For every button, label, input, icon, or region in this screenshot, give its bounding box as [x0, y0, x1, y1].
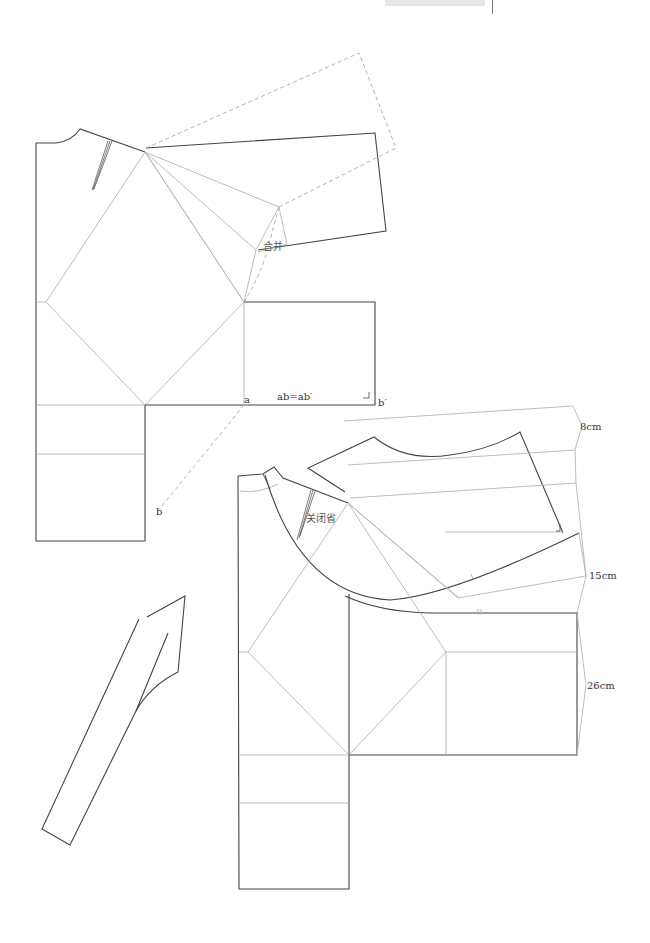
merge-label: 合并 — [263, 240, 283, 252]
upper-sleeve-outline — [146, 133, 386, 250]
upper-ray-1 — [145, 152, 279, 207]
ab-equals-label: ab=ab′ — [277, 391, 313, 402]
upper-ray-3 — [145, 152, 244, 302]
dim-26cm-label: 26cm — [587, 680, 615, 691]
dim-15cm-label: 15cm — [589, 570, 617, 581]
upper-draft: 合并 ab=ab′ a b′ b — [36, 53, 396, 541]
lower-guide-line-3 — [350, 483, 576, 498]
point-b-label: b — [156, 506, 162, 517]
upper-side-rectangle — [145, 302, 375, 405]
upper-armhole-dashed — [244, 207, 279, 302]
upper-bodice-outline — [36, 129, 145, 541]
notch-mark-1 — [471, 574, 473, 579]
close-dart-label: 关闭省 — [306, 512, 336, 524]
dimension-line — [573, 406, 586, 755]
lower-dim-lower-band — [348, 503, 586, 598]
lower-bodice-outline — [238, 476, 349, 889]
collar-piece-inner-line — [136, 633, 168, 711]
point-b-prime-label: b′ — [378, 397, 387, 408]
upper-neck-dart — [92, 141, 112, 190]
upper-right-angle-mark — [363, 392, 369, 398]
collar-piece-outline — [42, 596, 185, 845]
point-a-label: a — [244, 394, 250, 405]
lower-guide-line-1 — [344, 406, 573, 421]
lower-diamond-guide — [248, 503, 446, 755]
lower-guide-line-2 — [348, 450, 575, 465]
lower-neck-guide-curve — [240, 484, 278, 492]
upper-ab-dashed-line — [157, 405, 244, 512]
lower-draft: 关闭省 8cm 15cm 26cm — [238, 406, 617, 889]
upper-diamond-guide — [46, 152, 244, 405]
collar-piece — [42, 596, 185, 845]
lower-side-rectangle — [349, 613, 577, 755]
dim-8cm-label: 8cm — [580, 421, 602, 432]
upper-sleeve-rotated-dashed — [146, 53, 396, 207]
lower-neck-outline — [238, 467, 348, 503]
lower-collar-upper-outline — [308, 432, 563, 533]
upper-armhole-wedge — [244, 207, 287, 302]
pattern-diagram: 合并 ab=ab′ a b′ b — [0, 0, 650, 943]
